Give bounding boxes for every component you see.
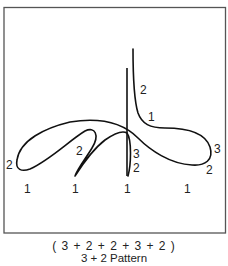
count-label: 3 xyxy=(133,147,140,161)
beat-label: 1 xyxy=(72,182,79,196)
beat-labels: 1111 xyxy=(24,182,191,196)
count-label: 2 xyxy=(133,161,140,175)
diagram-frame xyxy=(4,8,226,234)
conducting-pattern-diagram: 21322322 1111 xyxy=(0,0,228,266)
count-label: 2 xyxy=(76,144,83,158)
count-label: 2 xyxy=(6,158,13,172)
beat-label: 1 xyxy=(24,182,31,196)
pattern-formula: ( 3 + 2 + 2 + 3 + 2 ) xyxy=(0,239,228,253)
pattern-title: 3 + 2 Pattern xyxy=(0,252,228,264)
count-label: 1 xyxy=(148,110,155,124)
pattern-path xyxy=(17,49,211,176)
count-label: 2 xyxy=(206,163,213,177)
beat-label: 1 xyxy=(124,182,131,196)
beat-label: 1 xyxy=(184,182,191,196)
count-label: 3 xyxy=(214,142,221,156)
count-label: 2 xyxy=(140,83,147,97)
